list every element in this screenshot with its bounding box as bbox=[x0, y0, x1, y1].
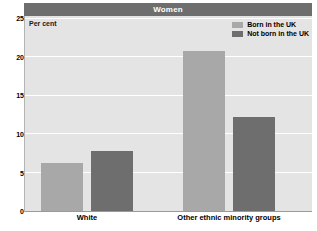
legend-label-not-born-in-uk: Not born in the UK bbox=[247, 30, 309, 37]
y-axis: 25 20 15 10 5 0 bbox=[0, 0, 24, 231]
x-axis-labels: White Other ethnic minority groups bbox=[24, 214, 312, 231]
page-title: Women bbox=[153, 6, 183, 14]
bar-other-not-born-in-uk bbox=[233, 117, 275, 211]
bars-layer bbox=[24, 16, 312, 212]
chart-container: Women 25 20 15 10 5 0 Per cent Born in t… bbox=[0, 0, 317, 231]
bar-other-born-in-uk bbox=[183, 51, 225, 211]
chart-title-bar: Women bbox=[24, 3, 312, 16]
y-tick-0: 0 bbox=[2, 208, 24, 215]
legend-swatch-not-born-in-uk-icon bbox=[232, 31, 243, 37]
y-tick-20: 20 bbox=[2, 54, 24, 61]
y-tick-15: 15 bbox=[2, 92, 24, 99]
bar-white-not-born-in-uk bbox=[91, 151, 133, 211]
y-tick-5: 5 bbox=[2, 170, 24, 177]
legend-item-born-in-uk: Born in the UK bbox=[232, 21, 309, 28]
x-label-other-ethnic-minority-groups: Other ethnic minority groups bbox=[177, 214, 280, 222]
y-tick-10: 10 bbox=[2, 131, 24, 138]
bar-white-born-in-uk bbox=[41, 163, 83, 211]
x-label-white: White bbox=[77, 214, 97, 222]
legend-item-not-born-in-uk: Not born in the UK bbox=[232, 30, 309, 37]
legend-swatch-born-in-uk-icon bbox=[232, 22, 243, 28]
chart-legend: Born in the UK Not born in the UK bbox=[232, 21, 309, 37]
legend-label-born-in-uk: Born in the UK bbox=[247, 21, 296, 28]
y-tick-25: 25 bbox=[2, 15, 24, 22]
